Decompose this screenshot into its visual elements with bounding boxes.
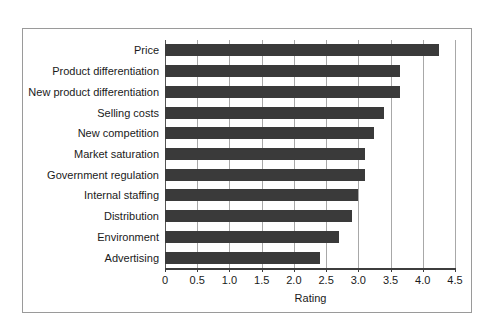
tick-2.0 [294,268,295,272]
bar [165,210,352,222]
category-label: New product differentiation [28,86,159,98]
x-tick-label: 1.0 [222,274,237,286]
x-tick-label: 2.0 [286,274,301,286]
x-tick-label: 3.5 [383,274,398,286]
bar [165,148,365,160]
tick-0.5 [197,268,198,272]
category-label: Product differentiation [52,65,159,77]
tick-0 [165,268,166,272]
x-tick-label: 2.5 [318,274,333,286]
category-label: Distribution [104,210,159,222]
x-axis-line [165,268,456,270]
gridline-4.5 [455,40,456,268]
category-label: Selling costs [97,107,159,119]
tick-1.0 [229,268,230,272]
category-label: Internal staffing [84,189,159,201]
chart-figure: PriceProduct differentiationNew product … [0,0,494,330]
bar [165,65,400,77]
tick-2.5 [326,268,327,272]
x-axis-title: Rating [165,292,456,304]
plot-area [165,40,455,268]
bar [165,189,358,201]
bar [165,44,439,56]
bar [165,86,400,98]
category-label: Market saturation [74,148,159,160]
bar [165,231,339,243]
x-tick-label: 3.0 [351,274,366,286]
bar [165,127,374,139]
x-tick-label: 0.5 [190,274,205,286]
tick-4.0 [423,268,424,272]
x-tick-label: 0 [162,274,168,286]
tick-1.5 [262,268,263,272]
category-label: Environment [97,231,159,243]
tick-3.0 [358,268,359,272]
bar [165,252,320,264]
bar [165,107,384,119]
category-label: Price [134,44,159,56]
category-label: New competition [78,127,159,139]
x-tick-label: 4.0 [415,274,430,286]
category-label: Advertising [105,252,159,264]
x-tick-label: 1.5 [254,274,269,286]
category-label: Government regulation [47,169,159,181]
bar [165,169,365,181]
tick-3.5 [391,268,392,272]
gridline-4.0 [423,40,424,268]
x-tick-label: 4.5 [447,274,462,286]
tick-4.5 [455,268,456,272]
